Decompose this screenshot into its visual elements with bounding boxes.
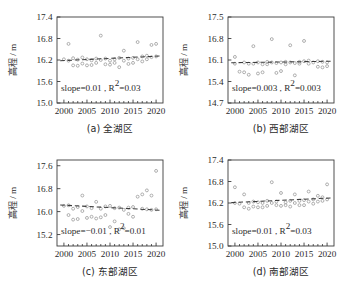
y-tick-label: 17.4 — [36, 12, 52, 22]
scatter-point — [293, 193, 296, 196]
x-tick-label: 2005 — [78, 249, 97, 259]
y-tick-label: 15.4 — [207, 77, 223, 87]
scatter-point — [307, 200, 310, 203]
x-tick-label: 2000 — [226, 106, 245, 116]
scatter-point — [95, 61, 98, 64]
y-tick-label: 17.6 — [36, 161, 52, 171]
scatter-point — [81, 62, 84, 65]
scatter-point — [275, 71, 278, 74]
panel-caption-b: (b) 西部湖区 — [253, 123, 310, 134]
scatter-point — [90, 215, 93, 218]
panel-c: 15.216.016.817.620002005201020152020高程 /… — [0, 143, 170, 286]
scatter-point — [72, 57, 75, 60]
four-panel-scatter-figure: 15.015.616.216.817.420002005201020152020… — [0, 0, 341, 286]
y-tick-label: 15.6 — [207, 220, 223, 230]
trend-line — [231, 198, 331, 203]
y-tick-label: 16.8 — [36, 184, 52, 194]
scatter-point — [72, 64, 75, 67]
scatter-point — [261, 206, 264, 209]
scatter-point — [261, 63, 264, 66]
scatter-point — [86, 216, 89, 219]
stats-annotation: slope=−0.01 , R2=0.01 — [61, 221, 146, 236]
scatter-point — [284, 201, 287, 204]
scatter-point — [243, 193, 246, 196]
scatter-point — [122, 49, 125, 52]
scatter-point — [303, 40, 306, 43]
y-axis-title: 高程 / m — [178, 187, 189, 219]
x-tick-label: 2005 — [249, 106, 268, 116]
scatter-point — [104, 63, 107, 66]
y-tick-label: 16.2 — [36, 55, 52, 65]
scatter-point — [303, 204, 306, 207]
y-axis-title: 高程 / m — [7, 187, 18, 219]
y-tick-label: 16.2 — [207, 198, 223, 208]
scatter-point — [280, 204, 283, 207]
scatter-point — [243, 61, 246, 64]
scatter-point — [67, 42, 70, 45]
scatter-point — [81, 194, 84, 197]
scatter-point — [316, 194, 319, 197]
scatter-point — [109, 59, 112, 62]
scatter-point — [150, 44, 153, 47]
scatter-point — [243, 206, 246, 209]
scatter-point — [289, 44, 292, 47]
panel-plot-a: 15.015.616.216.817.420002005201020152020… — [0, 0, 170, 143]
x-tick-label: 2005 — [78, 106, 97, 116]
y-tick-label: 17.4 — [207, 155, 223, 165]
panel-d: 15.015.616.216.817.420002005201020152020… — [171, 143, 341, 286]
panel-caption-d: (d) 南部湖区 — [253, 266, 310, 277]
scatter-point — [238, 70, 241, 73]
scatter-point — [118, 66, 121, 69]
panel-plot-b: 14.715.416.116.817.520002005201020152020… — [171, 0, 341, 143]
x-tick-label: 2020 — [147, 106, 166, 116]
x-tick-label: 2015 — [124, 106, 143, 116]
scatter-point — [145, 189, 148, 192]
panel-b: 14.715.416.116.817.520002005201020152020… — [171, 0, 341, 143]
scatter-point — [150, 194, 153, 197]
scatter-point — [316, 65, 319, 68]
scatter-point — [72, 218, 75, 221]
scatter-point — [270, 202, 273, 205]
scatter-point — [321, 199, 324, 202]
scatter-point — [257, 72, 260, 75]
y-tick-label: 15.0 — [36, 98, 52, 108]
scatter-point — [104, 214, 107, 217]
scatter-point — [90, 64, 93, 67]
y-tick-label: 16.1 — [207, 55, 223, 65]
scatter-point — [233, 55, 236, 58]
scatter-point — [289, 205, 292, 208]
scatter-point — [122, 59, 125, 62]
y-axis-title: 高程 / m — [178, 44, 189, 76]
scatter-point — [155, 169, 158, 172]
scatter-point — [132, 206, 135, 209]
scatter-point — [72, 207, 75, 210]
y-tick-label: 15.2 — [36, 230, 52, 240]
y-tick-label: 17.5 — [207, 12, 223, 22]
scatter-point — [280, 192, 283, 195]
y-axis-title: 高程 / m — [7, 44, 18, 76]
y-tick-label: 16.0 — [36, 207, 52, 217]
scatter-point — [122, 208, 125, 211]
scatter-point — [247, 207, 250, 210]
y-tick-label: 16.8 — [207, 34, 223, 44]
scatter-point — [233, 186, 236, 189]
scatter-point — [99, 216, 102, 219]
scatter-point — [76, 64, 79, 67]
x-tick-label: 2000 — [55, 249, 74, 259]
scatter-point — [99, 34, 102, 37]
scatter-point — [326, 183, 329, 186]
y-tick-label: 14.7 — [207, 98, 223, 108]
scatter-point — [132, 215, 135, 218]
scatter-point — [316, 200, 319, 203]
x-tick-label: 2005 — [249, 249, 268, 259]
x-tick-label: 2015 — [124, 249, 143, 259]
panel-a: 15.015.616.216.817.420002005201020152020… — [0, 0, 170, 143]
scatter-point — [155, 42, 158, 45]
scatter-point — [326, 65, 329, 68]
scatter-point — [284, 204, 287, 207]
scatter-point — [67, 214, 70, 217]
scatter-point — [266, 204, 269, 207]
scatter-point — [252, 45, 255, 48]
scatter-point — [307, 62, 310, 65]
scatter-point — [280, 70, 283, 73]
